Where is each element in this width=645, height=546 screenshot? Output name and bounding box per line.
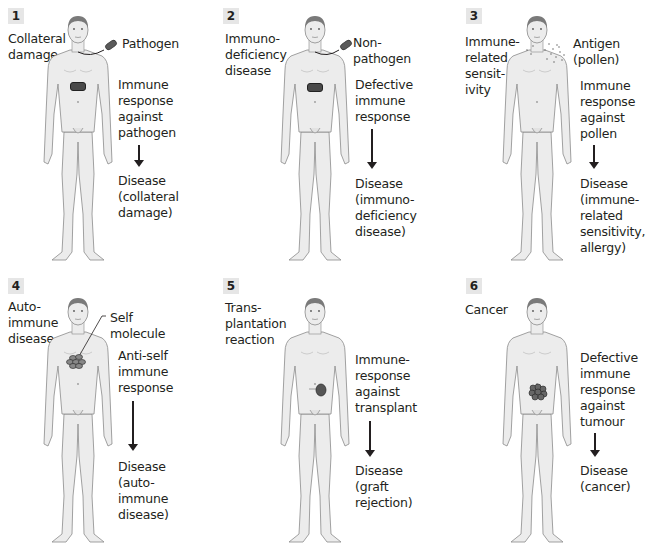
panel-immunodeficiency: 2 Immuno- deficiency disease Non-pathoge…: [215, 0, 426, 268]
outcome-label: Disease (cancer): [580, 463, 630, 495]
outcome-label: Disease (auto- immune disease): [118, 459, 169, 523]
arrow-down-icon: [588, 145, 600, 169]
arrow-down-icon: [364, 421, 376, 457]
panel-number: 4: [8, 278, 24, 294]
outcome-label: Disease (immune- related sensitivity, al…: [580, 176, 645, 256]
response-label: Immune response against pollen: [580, 78, 635, 142]
panel-immune-sensitivity: 3 Immune- related sensit- ivity Antigen …: [425, 0, 636, 268]
tumour-icon: [528, 383, 548, 401]
panel-number: 2: [223, 8, 239, 24]
arrow-down-icon: [589, 433, 601, 457]
response-label: Defective immune response against tumour: [580, 350, 638, 430]
arrow-down-icon: [133, 145, 145, 167]
pathogen-bacterium-icon: [70, 38, 120, 62]
panel-cancer: 6 Cancer Defective immune response again…: [425, 270, 636, 538]
pollen-dots-icon: [525, 40, 571, 64]
chest-bacterium-marker: [307, 83, 323, 92]
self-molecule-cluster-icon: [64, 312, 114, 372]
agent-label: Non-pathogen: [353, 35, 426, 67]
panel-collateral-damage: 1 Collateral damage Pathogen Immune resp…: [0, 0, 211, 268]
outcome-label: Disease (graft rejection): [355, 463, 412, 511]
agent-label: Self molecule: [110, 310, 165, 342]
arrow-down-icon: [366, 129, 378, 169]
non-pathogen-bacterium-icon: [307, 38, 353, 62]
outcome-label: Disease (collateral damage): [118, 173, 179, 221]
kidney-transplant-icon: [307, 382, 329, 398]
response-label: Defective immune response: [355, 77, 413, 125]
agent-label: Antigen (pollen): [573, 36, 620, 68]
human-figure: [499, 296, 575, 546]
chest-bacterium-marker: [70, 82, 86, 91]
panel-number: 1: [8, 8, 24, 24]
response-label: Immune- response against transplant: [355, 352, 417, 416]
response-label: Anti-self immune response: [118, 348, 173, 396]
panel-number: 3: [466, 8, 482, 24]
panel-number: 6: [466, 278, 482, 294]
arrow-down-icon: [127, 401, 139, 451]
human-figure: [277, 296, 353, 546]
outcome-label: Disease (immuno- deficiency disease): [355, 176, 417, 240]
response-label: Immune response against pathogen: [118, 77, 176, 141]
panel-number: 5: [223, 278, 239, 294]
panel-autoimmune: 4 Auto- immune disease Self molecule Ant…: [0, 270, 211, 538]
agent-label: Pathogen: [122, 36, 179, 52]
panel-transplantation: 5 Trans- plantation reaction Immune- res…: [215, 270, 426, 538]
